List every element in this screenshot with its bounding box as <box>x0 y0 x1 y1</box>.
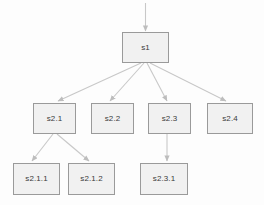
edge-s2.1-to-s2.1.2 <box>57 134 89 161</box>
edge-s2.1-to-s2.1.1 <box>32 134 53 161</box>
node-s1[interactable]: s1 <box>122 32 169 63</box>
node-s2-1-2[interactable]: s2.1.2 <box>68 163 115 195</box>
edge-s1-to-s2.3 <box>147 63 167 101</box>
node-label-s2-1-2: s2.1.2 <box>80 175 102 183</box>
node-s2-1[interactable]: s2.1 <box>33 103 76 134</box>
node-label-s2-3-1: s2.3.1 <box>153 175 175 183</box>
node-s2-3-1[interactable]: s2.3.1 <box>140 163 188 195</box>
state-hierarchy-diagram: s1 s2.1 s2.2 s2.3 s2.4 s2.1.1 s2.1.2 s2.… <box>0 0 264 205</box>
node-label-s2-1: s2.1 <box>47 115 63 123</box>
node-label-s2-2: s2.2 <box>105 115 121 123</box>
node-s2-1-1[interactable]: s2.1.1 <box>13 163 60 195</box>
node-s2-4[interactable]: s2.4 <box>207 103 253 134</box>
node-label-s1: s1 <box>141 44 150 52</box>
node-s2-3[interactable]: s2.3 <box>148 103 191 134</box>
node-label-s2-1-1: s2.1.1 <box>25 175 47 183</box>
edge-s1-to-s2.4 <box>150 63 226 101</box>
node-s2-2[interactable]: s2.2 <box>91 103 134 134</box>
node-label-s2-3: s2.3 <box>162 115 178 123</box>
edge-s1-to-s2.2 <box>110 63 144 101</box>
edge-s1-to-s2.1 <box>58 63 141 101</box>
node-label-s2-4: s2.4 <box>222 115 238 123</box>
